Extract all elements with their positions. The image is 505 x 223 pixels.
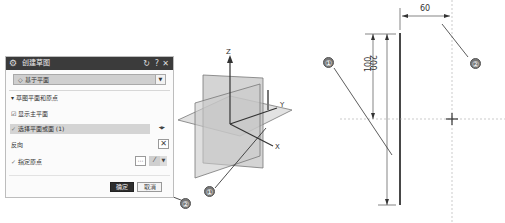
point-type-dropdown-icon[interactable]: ▼ bbox=[160, 156, 167, 166]
sketch-type-value: 基于平面 bbox=[25, 76, 49, 83]
gear-icon: ⚙ bbox=[9, 58, 17, 69]
x-axis-label: X bbox=[275, 143, 280, 151]
section-label: 草图平面和原点 bbox=[16, 94, 58, 101]
inferred-point-icon[interactable]: ⁄ bbox=[149, 156, 160, 166]
z-axis-label: Z bbox=[226, 48, 231, 56]
section-header[interactable]: ▾ 草图平面和原点 bbox=[11, 94, 58, 102]
check-icon: ✓ bbox=[11, 125, 16, 132]
dialog-titlebar: ⚙ 创建草图 ↻ ? ✕ bbox=[6, 57, 173, 70]
callout-2: ② bbox=[180, 198, 191, 209]
ok-button[interactable]: 确定 bbox=[110, 182, 134, 192]
callout-1: ① bbox=[204, 186, 215, 197]
plane-type-icon: ◇ bbox=[18, 76, 23, 83]
specify-origin-row[interactable]: ✓ 指定原点 bbox=[11, 158, 42, 166]
point-dialog-icon[interactable]: ⋯ bbox=[135, 156, 146, 166]
cancel-button[interactable]: 取消 bbox=[137, 182, 162, 192]
create-sketch-dialog: ⚙ 创建草图 ↻ ? ✕ ◇ 基于平面 ▼ ▾ 草图平面和原点 ☑ 显示主平面 … bbox=[5, 56, 174, 198]
help-icon[interactable]: ? bbox=[155, 58, 159, 69]
crosshair-icon[interactable]: ⌖ bbox=[156, 124, 167, 134]
dimension-100: 100 bbox=[364, 57, 373, 72]
reverse-direction-icon[interactable]: ✕ bbox=[158, 139, 169, 149]
dialog-title: 创建草图 bbox=[22, 59, 50, 68]
y-axis-label: Y bbox=[280, 101, 284, 109]
close-icon[interactable]: ✕ bbox=[162, 58, 169, 69]
select-plane-label: 选择平面或面 (1) bbox=[18, 125, 64, 132]
divider bbox=[9, 90, 170, 91]
collapse-icon[interactable]: ▾ bbox=[11, 94, 14, 101]
callout-2: ② bbox=[470, 58, 481, 69]
reverse-label: 反向 bbox=[11, 141, 23, 149]
specify-origin-label: 指定原点 bbox=[18, 158, 42, 165]
sketch-type-select[interactable]: ◇ 基于平面 ▼ bbox=[13, 74, 166, 85]
select-plane-field[interactable]: ✓ 选择平面或面 (1) bbox=[11, 125, 64, 133]
callout-1: ① bbox=[323, 57, 334, 68]
checkbox-checked-icon[interactable]: ☑ bbox=[11, 110, 16, 117]
dimension-60: 60 bbox=[420, 4, 430, 13]
chevron-down-icon[interactable]: ▼ bbox=[155, 75, 165, 84]
reset-icon[interactable]: ↻ bbox=[143, 58, 150, 69]
sketch-drawing bbox=[334, 0, 505, 223]
divider bbox=[9, 175, 170, 176]
show-main-plane-checkbox[interactable]: ☑ 显示主平面 bbox=[11, 110, 48, 118]
check-icon: ✓ bbox=[11, 158, 16, 165]
show-main-plane-label: 显示主平面 bbox=[18, 110, 48, 117]
